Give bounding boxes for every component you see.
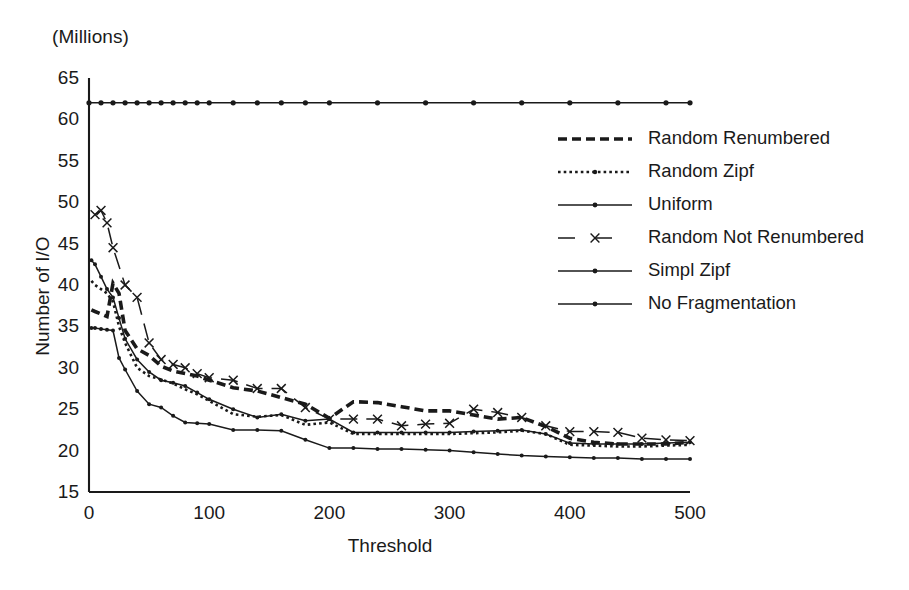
x-tick-label: 500 (660, 503, 720, 522)
data-point (496, 429, 500, 433)
data-point (111, 295, 115, 299)
data-point (544, 454, 548, 458)
series-simpl-zipf (89, 258, 692, 446)
legend-item-label: Simpl Zipf (648, 259, 730, 281)
data-point (520, 454, 524, 458)
data-point (195, 100, 200, 105)
solid-line-with-dot-icon (556, 194, 634, 216)
data-point (195, 421, 199, 425)
data-point (448, 430, 452, 434)
data-point (147, 370, 151, 374)
data-point (255, 428, 259, 432)
data-point (688, 457, 692, 461)
data-point (171, 381, 175, 385)
data-point (568, 441, 572, 445)
data-point (327, 446, 331, 450)
y-tick-label: 45 (33, 234, 79, 253)
data-point (663, 100, 668, 105)
legend-item-label: Random Zipf (648, 160, 754, 182)
data-point-marker (157, 355, 166, 364)
data-point (376, 447, 380, 451)
data-point (520, 428, 524, 432)
data-point (279, 412, 283, 416)
data-point (207, 100, 212, 105)
data-point-marker (91, 210, 100, 219)
y-tick-label: 30 (33, 358, 79, 377)
data-point (123, 337, 127, 341)
legend-item-label: No Fragmentation (648, 292, 796, 314)
data-point (183, 420, 187, 424)
data-point (351, 430, 355, 434)
y-tick-label: 35 (33, 316, 79, 335)
data-point (99, 275, 103, 279)
x-tick-label: 200 (299, 503, 359, 522)
data-point (89, 326, 93, 330)
legend-item-label: Random Not Renumbered (648, 226, 864, 248)
data-point (195, 391, 199, 395)
legend-item-label: Random Renumbered (648, 127, 830, 149)
data-point (327, 417, 331, 421)
data-point (519, 100, 524, 105)
y-tick-label: 60 (33, 109, 79, 128)
data-point (98, 100, 103, 105)
data-point-marker (133, 293, 142, 302)
data-point (110, 100, 115, 105)
series-line (91, 260, 690, 444)
data-point (123, 368, 127, 372)
data-point (472, 450, 476, 454)
data-point (159, 100, 164, 105)
data-point (664, 457, 668, 461)
x-tick-label: 300 (420, 503, 480, 522)
data-point (159, 406, 163, 410)
data-point (375, 100, 380, 105)
data-point (303, 438, 307, 442)
x-tick-label: 400 (540, 503, 600, 522)
data-point-marker (109, 243, 118, 252)
data-point (351, 446, 355, 450)
data-point (207, 422, 211, 426)
data-point (424, 448, 428, 452)
data-point (688, 440, 692, 444)
units-note: (Millions) (52, 26, 129, 48)
data-point (567, 100, 572, 105)
data-point (544, 432, 548, 436)
fine-dotted-line-icon (556, 161, 634, 183)
thick-dashed-line-icon (556, 128, 634, 150)
chart-figure: (Millions) Number of I/O Threshold 15202… (0, 0, 909, 590)
data-point (105, 287, 109, 291)
data-point (89, 258, 93, 262)
data-point (147, 100, 152, 105)
data-point (400, 430, 404, 434)
data-point (616, 442, 620, 446)
long-dashed-line-with-x-icon (556, 227, 634, 249)
data-point (93, 326, 97, 330)
x-axis-label: Threshold (295, 535, 485, 557)
data-point (111, 329, 115, 333)
data-point (99, 327, 103, 331)
data-point (592, 442, 596, 446)
data-point (640, 457, 644, 461)
data-point (171, 100, 176, 105)
data-point-marker (181, 363, 190, 372)
data-point (93, 262, 97, 266)
y-tick-label: 65 (33, 68, 79, 87)
data-point (448, 449, 452, 453)
data-point-marker (97, 206, 106, 215)
data-point (279, 100, 284, 105)
solid-line-with-dot-icon (556, 260, 634, 282)
series-uniform (89, 326, 692, 461)
data-point-marker (169, 360, 178, 369)
data-point (471, 100, 476, 105)
data-point (135, 358, 139, 362)
data-point (664, 441, 668, 445)
y-tick-label: 20 (33, 441, 79, 460)
data-point (687, 100, 692, 105)
data-point-marker (121, 281, 130, 290)
data-point (616, 456, 620, 460)
data-point (568, 455, 572, 459)
data-point (424, 430, 428, 434)
data-point (207, 397, 211, 401)
y-tick-label: 50 (33, 192, 79, 211)
data-point (376, 430, 380, 434)
data-point (135, 100, 140, 105)
